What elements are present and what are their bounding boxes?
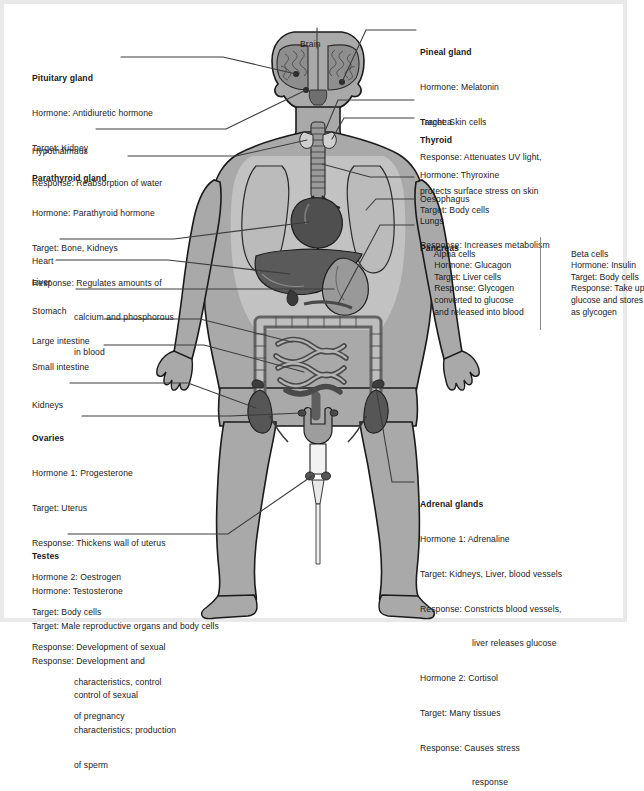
label-ovaries-title: Ovaries xyxy=(32,433,166,445)
pancreas-beta-line-4: glucose and stores xyxy=(571,295,643,305)
pancreas-alpha-line-0: Alpha cells xyxy=(434,249,476,259)
testis-right xyxy=(322,472,331,480)
label-testes-cont-2: of sperm xyxy=(32,760,219,772)
label-adrenal-glands[interactable]: Adrenal glands Hormone 1: Adrenaline Tar… xyxy=(420,476,562,791)
label-pituitary-title: Pituitary gland xyxy=(32,73,162,85)
label-pineal-title: Pineal gland xyxy=(420,47,542,59)
label-brain-title: Brain xyxy=(300,39,321,51)
pancreas-column-divider xyxy=(540,237,541,330)
label-pineal-line-0: Hormone: Melatonin xyxy=(420,82,542,94)
label-testes-line-2: Response: Development and xyxy=(32,656,219,668)
label-testes-cont-0: control of sexual xyxy=(32,690,219,702)
ovary-right xyxy=(330,410,338,416)
label-ovaries-line-1: Target: Uterus xyxy=(32,503,166,515)
pancreas-alpha-line-1: Hormone: Glucagon xyxy=(434,260,511,270)
label-adrenal-cont2-0: response xyxy=(420,777,562,789)
pancreas-alpha-line-2: Target: Liver cells xyxy=(434,272,501,282)
pancreas-beta-line-0: Beta cells xyxy=(571,249,608,259)
label-adrenal-line-2: Response: Constricts blood vessels, xyxy=(420,604,562,616)
pancreas-beta-line-3: Response: Take up xyxy=(571,283,644,293)
label-adrenal-cont1-0: liver releases glucose xyxy=(420,638,562,650)
pancreas-alpha-line-5: and released into blood xyxy=(434,307,523,317)
pancreas-alpha-column: Alpha cells Hormone: Glucagon Target: Li… xyxy=(420,237,524,330)
pancreas-beta-line-5: as glycogen xyxy=(571,307,617,317)
label-thyroid-title: Thyroid xyxy=(420,135,550,147)
label-adrenal-line-1: Target: Kidneys, Liver, blood vessels xyxy=(420,569,562,581)
pancreas-cell-columns: Alpha cells Hormone: Glucagon Target: Li… xyxy=(420,237,644,330)
label-pituitary-line-0: Hormone: Antidiuretic hormone xyxy=(32,108,162,120)
pancreas-alpha-line-4: converted to glucose xyxy=(434,295,513,305)
label-testes-line-0: Hormone: Testosterone xyxy=(32,586,219,598)
label-adrenal-line-0: Hormone 1: Adrenaline xyxy=(420,534,562,546)
label-parathyroid-line-0: Hormone: Parathyroid hormone xyxy=(32,208,174,220)
label-adrenal-title: Adrenal glands xyxy=(420,499,562,511)
label-ovaries-line-0: Hormone 1: Progesterone xyxy=(32,468,166,480)
reproductive-organs xyxy=(298,408,338,564)
label-adrenal-line2-0: Hormone 2: Cortisol xyxy=(420,673,562,685)
label-testes[interactable]: Testes Hormone: Testosterone Target: Mal… xyxy=(32,528,219,791)
pancreas-beta-line-1: Hormone: Insulin xyxy=(571,260,636,270)
testis-left xyxy=(306,472,315,480)
label-parathyroid-title: Parathyroid gland xyxy=(32,173,174,185)
pancreas-beta-column: Beta cells Hormone: Insulin Target: Body… xyxy=(557,237,644,330)
label-small-intestine-title: Small intestine xyxy=(32,362,89,374)
label-adrenal-line2-1: Target: Many tissues xyxy=(420,708,562,720)
label-testes-title: Testes xyxy=(32,551,219,563)
label-testes-cont-1: characteristics; production xyxy=(32,725,219,737)
label-brain[interactable]: Brain xyxy=(300,16,321,74)
label-testes-line-1: Target: Male reproductive organs and bod… xyxy=(32,621,219,633)
label-adrenal-line2-2: Response: Causes stress xyxy=(420,743,562,755)
pancreas-beta-line-2: Target: Body cells xyxy=(571,272,639,282)
pancreas-alpha-line-3: Response: Glycogen xyxy=(434,283,514,293)
